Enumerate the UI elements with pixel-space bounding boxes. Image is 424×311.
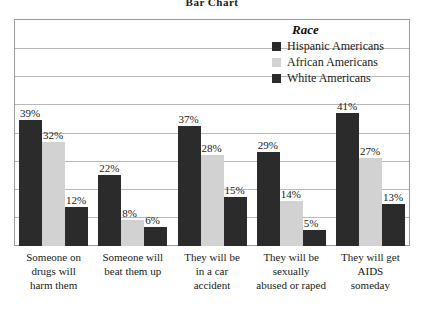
- bar-group: 37%28%15%: [178, 19, 247, 246]
- bar: [257, 152, 280, 246]
- bar-value-label: 5%: [304, 217, 338, 229]
- category-label: Someone willbeat them up: [93, 250, 172, 278]
- legend-item[interactable]: Hispanic Americans: [272, 39, 408, 54]
- legend-swatch-icon: [272, 74, 281, 83]
- category-label-line: abused or raped: [252, 278, 331, 292]
- category-label: They will besexuallyabused or raped: [252, 250, 331, 292]
- category-label-line: They will get: [331, 250, 410, 264]
- category-label-line: drugs will: [14, 264, 93, 278]
- bar-value-label: 37%: [179, 113, 213, 125]
- bar-group: 22%8%6%: [98, 19, 167, 246]
- chart-legend: Race Hispanic AmericansAfrican Americans…: [272, 22, 408, 87]
- bar-value-label: 14%: [281, 188, 315, 200]
- category-label: They will getAIDSsomeday: [331, 250, 410, 292]
- category-axis-labels: Someone ondrugs willharm themSomeone wil…: [14, 250, 410, 308]
- bar: [359, 158, 382, 246]
- category-label: They will bein a caraccident: [172, 250, 251, 292]
- legend-item-label: White Americans: [287, 71, 371, 86]
- bar-value-label: 15%: [225, 184, 259, 196]
- bar: [382, 204, 405, 246]
- bar-value-label: 27%: [360, 145, 394, 157]
- category-label-line: beat them up: [93, 264, 172, 278]
- bar-value-label: 13%: [383, 191, 417, 203]
- chart-container: Bar Chart 39%32%12%22%8%6%37%28%15%29%14…: [0, 0, 424, 311]
- legend-item[interactable]: White Americans: [272, 71, 408, 86]
- bar: [303, 230, 326, 246]
- bar: [178, 126, 201, 246]
- bar: [19, 120, 42, 246]
- bar: [98, 175, 121, 246]
- bar: [280, 201, 303, 246]
- bar-value-label: 32%: [43, 129, 77, 141]
- category-label-line: Someone will: [93, 250, 172, 264]
- bar-value-label: 41%: [337, 100, 371, 112]
- legend-swatch-icon: [272, 42, 281, 51]
- category-label-line: harm them: [14, 278, 93, 292]
- bar: [42, 142, 65, 246]
- bar-value-label: 39%: [20, 107, 54, 119]
- category-label-line: They will be: [172, 250, 251, 264]
- bar-value-label: 29%: [258, 139, 292, 151]
- bar: [336, 113, 359, 246]
- bar-group: 39%32%12%: [19, 19, 88, 246]
- category-label: Someone ondrugs willharm them: [14, 250, 93, 292]
- bar: [121, 220, 144, 246]
- category-label-line: in a car: [172, 264, 251, 278]
- bar-value-label: 22%: [99, 162, 133, 174]
- chart-title: Bar Chart: [0, 0, 424, 6]
- bar-value-label: 6%: [145, 214, 179, 226]
- bar: [201, 155, 224, 246]
- category-label-line: someday: [331, 278, 410, 292]
- legend-swatch-icon: [272, 58, 281, 67]
- legend-item[interactable]: African Americans: [272, 55, 408, 70]
- bar-value-label: 28%: [202, 142, 236, 154]
- category-label-line: accident: [172, 278, 251, 292]
- category-label-line: sexually: [252, 264, 331, 278]
- bar: [144, 227, 167, 246]
- bar-value-label: 12%: [66, 194, 100, 206]
- legend-title: Race: [292, 22, 408, 38]
- category-label-line: AIDS: [331, 264, 410, 278]
- bar: [65, 207, 88, 246]
- legend-item-label: Hispanic Americans: [287, 39, 384, 54]
- category-label-line: Someone on: [14, 250, 93, 264]
- category-label-line: They will be: [252, 250, 331, 264]
- legend-item-label: African Americans: [287, 55, 378, 70]
- bar: [224, 197, 247, 246]
